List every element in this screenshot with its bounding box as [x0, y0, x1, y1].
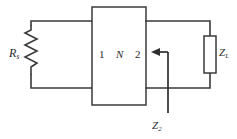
input-impedance-arrowhead — [151, 48, 160, 56]
input-impedance-label: Z2 — [152, 120, 162, 131]
input-impedance-label-subscript: 2 — [158, 125, 161, 132]
source-resistor-label: Rs — [9, 47, 19, 59]
network-designator-label: N — [116, 49, 123, 60]
port-2-label: 2 — [135, 49, 141, 60]
load-impedance-label-subscript: L — [225, 52, 229, 59]
circuit-diagram: Rs 1 N 2 ZL Z2 — [0, 0, 237, 139]
source-resistor-symbol — [25, 25, 37, 75]
circuit-schematic-svg — [0, 0, 237, 139]
source-resistor-label-subscript: s — [16, 52, 19, 61]
wire-bottom-left — [31, 75, 92, 88]
load-impedance-label: ZL — [219, 47, 229, 58]
port-1-label: 1 — [99, 49, 105, 60]
wire-bottom-right — [146, 73, 210, 88]
wire-top-left — [31, 21, 92, 25]
load-impedance-box — [204, 36, 216, 73]
wire-top-right — [146, 21, 210, 36]
